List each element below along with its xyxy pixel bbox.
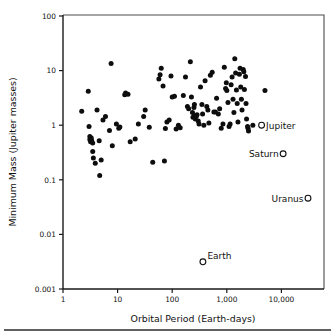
exoplanet-point (86, 89, 91, 94)
exoplanet-point (224, 88, 229, 93)
planet-marker-saturn (280, 151, 286, 157)
exoplanet-point (117, 124, 122, 129)
exoplanet-point (93, 161, 98, 166)
exoplanet-point (162, 159, 167, 164)
exoplanet-point (110, 143, 115, 148)
exoplanet-point (195, 112, 200, 117)
exoplanet-point (198, 85, 203, 90)
exoplanet-point (90, 149, 95, 154)
exoplanet-point (168, 73, 173, 78)
exoplanet-point (189, 94, 194, 99)
planet-marker-earth (200, 259, 206, 265)
exoplanet-point (172, 94, 177, 99)
exoplanet-point (262, 88, 267, 93)
exoplanet-point (224, 80, 229, 85)
exoplanet-point (231, 97, 236, 102)
planet-label-jupiter: Jupiter (265, 121, 296, 131)
exoplanet-point (232, 56, 237, 61)
exoplanet-point (90, 141, 95, 146)
exoplanet-point (97, 173, 102, 178)
exoplanet-point (79, 109, 84, 114)
exoplanet-point (240, 107, 245, 112)
exoplanet-point (205, 107, 210, 112)
exoplanet-point (125, 92, 130, 97)
x-tick-label: 1 (61, 295, 66, 304)
exoplanet-point (210, 70, 215, 75)
exoplanet-point (141, 114, 146, 119)
exoplanet-point (203, 78, 208, 83)
exoplanet-point (206, 120, 211, 125)
planet-marker-uranus (305, 195, 311, 201)
exoplanet-scatter-figure: 1101001,00010,000 0.0010.010.1110100 Jup… (0, 0, 335, 335)
exoplanet-point (103, 114, 108, 119)
exoplanet-point (109, 61, 114, 66)
exoplanet-point (235, 101, 240, 106)
y-tick-label: 0.1 (44, 176, 56, 185)
exoplanet-point (163, 126, 168, 131)
exoplanet-point (214, 96, 219, 101)
exoplanet-point (188, 59, 193, 64)
exoplanet-point (244, 101, 249, 106)
exoplanet-point (150, 160, 155, 165)
exoplanet-point (243, 74, 248, 79)
exoplanet-point (167, 117, 172, 122)
exoplanet-point (237, 72, 242, 77)
exoplanet-point (183, 75, 188, 80)
y-tick-label: 10 (47, 66, 57, 75)
exoplanet-point (133, 136, 138, 141)
exoplanet-point (192, 102, 197, 107)
exoplanet-point (229, 82, 234, 87)
exoplanet-point (217, 106, 222, 111)
x-tick-label: 1,000 (216, 295, 237, 304)
exoplanet-point (128, 139, 133, 144)
exoplanet-point (197, 122, 202, 127)
exoplanet-point (91, 156, 96, 161)
exoplanet-point (161, 84, 166, 89)
exoplanet-point (97, 138, 102, 143)
exoplanet-point (246, 129, 251, 134)
exoplanet-point (186, 106, 191, 111)
exoplanet-point (228, 122, 233, 127)
exoplanet-point (201, 123, 206, 128)
x-tick-label: 10 (113, 295, 123, 304)
exoplanet-point (230, 75, 235, 80)
y-axis-title: Minimum Mass (Jupiter masses) (7, 77, 18, 226)
exoplanet-point (181, 93, 186, 98)
exoplanet-point (242, 87, 247, 92)
exoplanet-point (235, 119, 240, 124)
x-tick-label: 10,000 (268, 295, 294, 304)
exoplanet-point (143, 107, 148, 112)
exoplanet-point (225, 100, 230, 105)
exoplanet-point (99, 158, 104, 163)
exoplanet-point (87, 124, 92, 129)
y-tick-label: 0.01 (40, 230, 57, 239)
planet-label-uranus: Uranus (272, 194, 304, 204)
planet-label-earth: Earth (207, 251, 231, 261)
exoplanet-point (199, 102, 204, 107)
y-tick-label: 1 (51, 121, 56, 130)
exoplanet-point (159, 66, 164, 71)
exoplanet-point (231, 110, 236, 115)
exoplanet-point (241, 69, 246, 74)
planet-label-saturn: Saturn (249, 149, 279, 159)
exoplanet-point (200, 112, 205, 117)
exoplanet-point (239, 97, 244, 102)
y-tick-label: 100 (42, 12, 56, 21)
exoplanet-point (158, 72, 163, 77)
exoplanet-point (178, 125, 183, 130)
exoplanet-point (234, 88, 239, 93)
exoplanet-point (250, 123, 255, 128)
planet-marker-jupiter (259, 122, 265, 128)
exoplanet-point (216, 112, 221, 117)
exoplanet-point (107, 128, 112, 133)
x-axis-title: Orbital Period (Earth-days) (131, 313, 256, 324)
exoplanet-point (220, 122, 225, 127)
exoplanet-point (222, 65, 227, 70)
x-tick-label: 100 (165, 295, 179, 304)
exoplanet-point (244, 116, 249, 121)
exoplanet-point (147, 125, 152, 130)
exoplanet-point (156, 77, 161, 82)
exoplanet-point (95, 107, 100, 112)
exoplanet-point (136, 122, 141, 127)
y-tick-label: 0.001 (35, 285, 56, 294)
